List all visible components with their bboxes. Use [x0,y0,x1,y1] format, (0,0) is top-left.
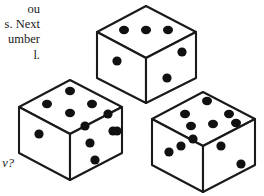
body-line-3: umber [0,32,40,47]
die-top [97,6,196,103]
question-fragment: v? [0,156,14,171]
body-paragraph: ou s. Next umber l. [0,2,40,63]
body-line-1: ou [0,2,40,17]
die-top-pips-left [112,56,121,65]
die-left-pips-left [34,129,43,138]
body-line-2: s. Next [0,17,40,32]
body-line-4: l. [0,48,40,63]
dice-illustration-page: ou s. Next umber l. v? [0,0,264,196]
die-top-pips-top [119,26,173,34]
die-right [152,92,255,192]
die-left [19,80,122,180]
